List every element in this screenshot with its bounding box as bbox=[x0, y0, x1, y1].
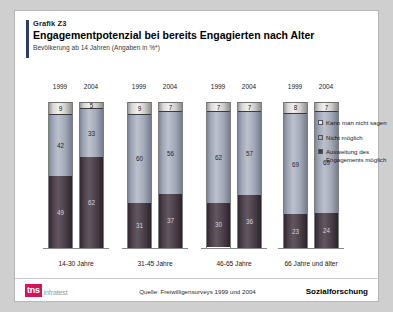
bar-year-label: 2004 bbox=[236, 83, 262, 90]
category-label: 31-45 Jahre bbox=[122, 260, 188, 267]
stacked-bar[interactable]: 53362 bbox=[79, 102, 104, 248]
bar-segment-bottom: 36 bbox=[238, 195, 261, 248]
bar-segment-middle: 42 bbox=[49, 115, 72, 176]
bar-segment-top: 9 bbox=[128, 102, 151, 115]
category-label: 46-65 Jahre bbox=[201, 260, 267, 267]
bar-group: 19999603120047563731-45 Jahre bbox=[122, 83, 188, 263]
legend-label: Nicht möglich bbox=[326, 134, 363, 142]
bar-year-label: 1999 bbox=[47, 83, 73, 90]
page-title: Engagementpotenzial bei bereits Engagier… bbox=[27, 29, 367, 42]
chart-kicker: Grafik Z3 bbox=[27, 19, 367, 28]
group-baseline bbox=[122, 248, 188, 249]
stacked-bar[interactable]: 75637 bbox=[158, 102, 183, 248]
chart-card: Grafik Z3 Engagementpotenzial bei bereit… bbox=[14, 10, 379, 302]
bar-segment-bottom: 62 bbox=[80, 157, 103, 248]
bar-year-label: 1999 bbox=[126, 83, 152, 90]
chart-subtitle: Bevölkerung ab 14 Jahren (Angaben in %*) bbox=[27, 43, 367, 52]
legend-label: Kann man nicht sagen bbox=[326, 119, 387, 127]
stacked-bar[interactable]: 75736 bbox=[237, 102, 262, 248]
bar-group: 19999424920045336214-30 Jahre bbox=[43, 83, 109, 263]
legend-swatch-icon bbox=[318, 120, 323, 125]
bar-segment-middle: 33 bbox=[80, 109, 103, 157]
stacked-bar[interactable]: 94249 bbox=[48, 102, 73, 248]
bar-segment-bottom: 24 bbox=[315, 213, 338, 248]
bar-year-label: 2004 bbox=[78, 83, 104, 90]
bar-segment-middle: 69 bbox=[284, 114, 307, 215]
stacked-bar[interactable]: 96031 bbox=[127, 102, 152, 248]
department-label: Sozialforschung bbox=[306, 287, 368, 296]
bar-segment-middle: 60 bbox=[128, 115, 151, 203]
bar-year-label: 2004 bbox=[313, 83, 339, 90]
bar-segment-bottom: 30 bbox=[207, 203, 230, 247]
bar-segment-bottom: 31 bbox=[128, 203, 151, 248]
bar-segment-top: 9 bbox=[49, 102, 72, 115]
bar-group: 19998692320047692466 Jahre und älter bbox=[278, 83, 344, 263]
bar-segment-bottom: 23 bbox=[284, 214, 307, 248]
legend-item[interactable]: Kann man nicht sagen bbox=[318, 119, 390, 127]
bar-segment-top: 5 bbox=[80, 102, 103, 109]
bar-segment-middle: 56 bbox=[159, 112, 182, 194]
legend-label: Ausweitung des Engagements möglich bbox=[326, 148, 390, 163]
stacked-bar[interactable]: 86923 bbox=[283, 102, 308, 248]
legend-item[interactable]: Nicht möglich bbox=[318, 134, 390, 142]
bar-segment-top: 8 bbox=[284, 102, 307, 114]
category-label: 14-30 Jahre bbox=[43, 260, 109, 267]
bar-segment-middle: 57 bbox=[238, 112, 261, 195]
group-baseline bbox=[43, 248, 109, 249]
legend-item[interactable]: Ausweitung des Engagements möglich bbox=[318, 148, 390, 163]
footer-divider bbox=[15, 278, 380, 279]
category-label: 66 Jahre und älter bbox=[278, 260, 344, 267]
legend-swatch-icon bbox=[318, 149, 323, 154]
bar-segment-top: 7 bbox=[207, 102, 230, 112]
bar-year-label: 1999 bbox=[282, 83, 308, 90]
chart-plot-area: 19999424920045336214-30 Jahre19999603120… bbox=[15, 83, 380, 263]
bar-segment-middle: 62 bbox=[207, 112, 230, 203]
bar-segment-top: 7 bbox=[159, 102, 182, 112]
group-baseline bbox=[201, 248, 267, 249]
stacked-bar[interactable]: 76230 bbox=[206, 102, 231, 248]
bar-group: 19997623020047573646-65 Jahre bbox=[201, 83, 267, 263]
bar-segment-top: 7 bbox=[315, 102, 338, 112]
chart-legend: Kann man nicht sagenNicht möglichAusweit… bbox=[318, 119, 390, 170]
bar-segment-bottom: 37 bbox=[159, 194, 182, 248]
bar-segment-top: 7 bbox=[238, 102, 261, 112]
chart-header: Grafik Z3 Engagementpotenzial bei bereit… bbox=[27, 19, 367, 52]
bar-segment-bottom: 49 bbox=[49, 176, 72, 248]
bar-year-label: 2004 bbox=[157, 83, 183, 90]
bar-year-label: 1999 bbox=[205, 83, 231, 90]
group-baseline bbox=[278, 248, 344, 249]
legend-swatch-icon bbox=[318, 135, 323, 140]
